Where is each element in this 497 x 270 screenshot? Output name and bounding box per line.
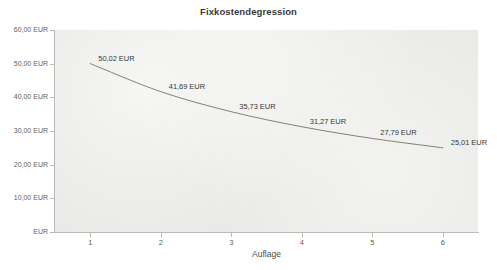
x-axis-title: Auflage <box>55 249 478 259</box>
x-tick-mark <box>90 233 91 237</box>
data-point-label: 50,02 EUR <box>98 54 134 63</box>
y-tick-mark <box>50 64 54 65</box>
y-tick-mark <box>50 131 54 132</box>
x-tick-mark <box>161 233 162 237</box>
x-tick-mark <box>372 233 373 237</box>
chart-title: Fixkostendegression <box>0 6 497 17</box>
y-tick-mark <box>50 165 54 166</box>
y-tick-label: 50,00 EUR <box>14 60 48 68</box>
y-axis-line <box>54 30 55 233</box>
x-tick-mark <box>443 233 444 237</box>
x-tick-label: 1 <box>75 238 105 247</box>
y-tick-label: 40,00 EUR <box>14 93 48 101</box>
data-point-label: 27,79 EUR <box>380 128 416 137</box>
x-tick-label: 6 <box>428 238 458 247</box>
data-point-label: 35,73 EUR <box>239 102 275 111</box>
data-point-label: 41,69 EUR <box>169 82 205 91</box>
x-tick-label: 3 <box>216 238 246 247</box>
x-axis-line <box>54 232 479 233</box>
x-tick-mark <box>231 233 232 237</box>
y-tick-label: 10,00 EUR <box>14 194 48 202</box>
y-tick-label: EUR <box>33 228 48 236</box>
x-tick-label: 5 <box>357 238 387 247</box>
data-point-label: 25,01 EUR <box>451 138 487 147</box>
data-point-label: 31,27 EUR <box>310 117 346 126</box>
x-tick-mark <box>302 233 303 237</box>
y-tick-label: 60,00 EUR <box>14 26 48 34</box>
x-tick-label: 2 <box>146 238 176 247</box>
y-tick-mark <box>50 232 54 233</box>
y-tick-mark <box>50 198 54 199</box>
chart-container: Fixkostendegression 60,00 EUR50,00 EUR40… <box>0 0 497 270</box>
y-tick-label: 30,00 EUR <box>14 127 48 135</box>
y-tick-mark <box>50 97 54 98</box>
x-tick-label: 4 <box>287 238 317 247</box>
y-tick-label: 20,00 EUR <box>14 161 48 169</box>
y-tick-mark <box>50 30 54 31</box>
